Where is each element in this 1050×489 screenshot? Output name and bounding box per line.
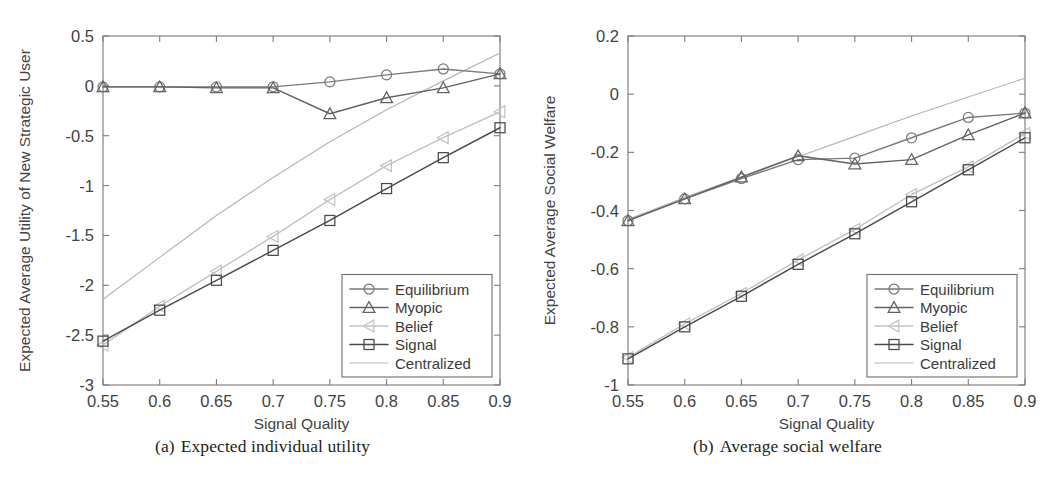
chart-legend: EquilibriumMyopicBeliefSignalCentralized (342, 275, 492, 378)
x-tick-label: 0.7 (787, 392, 810, 410)
y-tick-label: 0.5 (71, 27, 94, 45)
x-tick-label: 0.55 (612, 392, 644, 410)
y-tick-label: -0.8 (591, 318, 619, 336)
x-tick-label: 0.9 (1014, 392, 1037, 410)
series-line-equilibrium (103, 69, 500, 87)
x-tick-label: 0.9 (489, 392, 512, 410)
x-tick-label: 0.85 (427, 392, 459, 410)
y-tick-label: -1.5 (66, 226, 94, 244)
legend-label-equilibrium: Equilibrium (920, 281, 994, 298)
figure-panel-b: 0.550.60.650.70.750.80.850.9Signal Quali… (525, 0, 1050, 489)
subcaption-b-label: (b) (693, 436, 714, 456)
y-tick-label: -2.5 (66, 326, 94, 344)
x-tick-label: 0.65 (200, 392, 232, 410)
legend-label-myopic: Myopic (920, 299, 968, 316)
x-tick-label: 0.65 (725, 392, 757, 410)
series-line-equilibrium (628, 113, 1025, 221)
x-tick-label: 0.55 (87, 392, 119, 410)
legend-label-myopic: Myopic (395, 299, 443, 316)
figure-row: 0.550.60.650.70.750.80.850.9Signal Quali… (0, 0, 1050, 489)
y-tick-label: -0.4 (591, 202, 619, 220)
y-tick-label: -2 (79, 276, 94, 294)
series-line-myopic (103, 74, 500, 114)
subcaption-a: (a)Expected individual utility (0, 436, 525, 457)
x-tick-label: 0.8 (375, 392, 398, 410)
figure-panel-a: 0.550.60.650.70.750.80.850.9Signal Quali… (0, 0, 525, 489)
legend-label-centralized: Centralized (920, 355, 996, 372)
x-tick-label: 0.8 (900, 392, 923, 410)
legend-label-signal: Signal (920, 336, 962, 353)
subcaption-a-label: (a) (155, 436, 175, 456)
subcaption-b-text: Average social welfare (720, 436, 882, 456)
chart-legend: EquilibriumMyopicBeliefSignalCentralized (867, 275, 1017, 378)
y-axis-title: Expected Average Utility of New Strategi… (16, 49, 33, 372)
series-centralized (103, 53, 500, 299)
y-tick-label: -1 (79, 177, 94, 195)
y-tick-label: -0.6 (591, 260, 619, 278)
chart-a: 0.550.60.650.70.750.80.850.9Signal Quali… (0, 0, 525, 436)
series-line-centralized (103, 53, 500, 299)
x-tick-label: 0.75 (314, 392, 346, 410)
y-tick-label: 0 (85, 77, 94, 95)
y-tick-label: 0.2 (596, 27, 619, 45)
subcaption-b: (b)Average social welfare (525, 436, 1050, 457)
x-tick-label: 0.7 (262, 392, 285, 410)
y-axis-title: Expected Average Social Welfare (541, 96, 558, 325)
series-myopic (97, 68, 506, 119)
y-tick-label: -0.2 (591, 143, 619, 161)
subcaption-a-text: Expected individual utility (181, 436, 370, 456)
y-tick-label: -0.5 (66, 127, 94, 145)
series-line-myopic (628, 113, 1025, 221)
legend-label-equilibrium: Equilibrium (395, 281, 469, 298)
x-tick-label: 0.85 (952, 392, 984, 410)
legend-label-centralized: Centralized (395, 355, 471, 372)
y-tick-label: 0 (610, 85, 619, 103)
x-tick-label: 0.6 (148, 392, 171, 410)
x-tick-label: 0.75 (839, 392, 871, 410)
x-axis-title: Signal Quality (779, 415, 875, 432)
legend-label-belief: Belief (395, 318, 433, 335)
y-tick-label: -1 (604, 376, 619, 394)
legend-label-signal: Signal (395, 336, 437, 353)
x-tick-label: 0.6 (673, 392, 696, 410)
legend-label-belief: Belief (920, 318, 958, 335)
y-tick-label: -3 (79, 376, 94, 394)
chart-b: 0.550.60.650.70.750.80.850.9Signal Quali… (525, 0, 1050, 436)
x-axis-title: Signal Quality (254, 415, 350, 432)
